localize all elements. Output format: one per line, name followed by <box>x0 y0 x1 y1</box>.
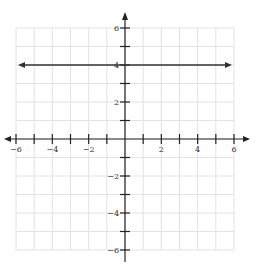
line-arrow-left-icon <box>18 62 25 68</box>
x-tick-label: 4 <box>195 145 200 154</box>
y-tick-label: 2 <box>114 98 119 107</box>
x-tick-label: 2 <box>159 145 164 154</box>
x-tick-label: −2 <box>83 145 95 154</box>
y-axis-arrow-icon <box>122 12 128 20</box>
x-axis <box>4 134 250 144</box>
line-arrow-right-icon <box>225 62 232 68</box>
y-axis <box>120 12 130 262</box>
y-tick-label: −2 <box>107 172 119 181</box>
x-tick-label: 6 <box>231 145 236 154</box>
x-tick-label: −4 <box>46 145 58 154</box>
y-tick-label: 4 <box>114 61 119 70</box>
x-tick-label: −6 <box>10 145 22 154</box>
y-tick-label: 6 <box>114 24 119 33</box>
x-axis-arrow-left-icon <box>4 136 11 142</box>
y-tick-label: −4 <box>107 209 119 218</box>
coordinate-plane: −6−4−2246642−2−4−6 <box>0 0 256 273</box>
y-tick-label: −6 <box>107 246 119 255</box>
x-axis-arrow-icon <box>243 136 250 142</box>
